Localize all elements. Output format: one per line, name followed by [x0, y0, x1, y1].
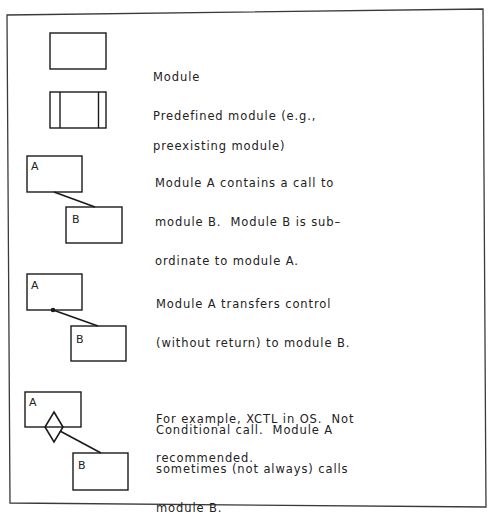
description-line: Conditional call. Module A — [156, 424, 349, 437]
module-a-label: A — [31, 279, 39, 292]
transfer-control-symbol: A B — [27, 274, 126, 361]
call-description: Module A contains a call to module B. Mo… — [155, 151, 341, 281]
description-line: ordinate to module A. — [155, 255, 341, 268]
description-line: preexisting module) — [153, 141, 316, 151]
description-line: module B. — [156, 502, 349, 515]
description-line: module B. Module B is sub– — [155, 216, 341, 229]
call-line — [54, 192, 95, 207]
transfer-dot-icon — [51, 308, 56, 313]
conditional-call-symbol: A B — [25, 392, 128, 490]
description-line: sometimes (not always) calls — [156, 463, 349, 476]
module-b-label: B — [78, 459, 86, 472]
description-line: Module A contains a call to — [155, 177, 341, 190]
conditional-call-description: Conditional call. Module A sometimes (no… — [156, 398, 349, 515]
transfer-line — [53, 310, 98, 326]
description-line: Module — [153, 71, 200, 84]
conditional-line — [60, 431, 101, 453]
predefined-module-symbol — [50, 92, 106, 128]
module-description: Module — [153, 45, 200, 97]
module-symbol — [50, 33, 106, 69]
description-line: Module A transfers control — [156, 298, 354, 311]
module-b-label: B — [76, 333, 84, 346]
module-a-label: A — [29, 396, 37, 409]
module-a-label: A — [31, 160, 39, 173]
module-b-label: B — [72, 213, 80, 226]
description-line: (without return) to module B. — [156, 337, 354, 350]
description-line: Predefined module (e.g., — [153, 111, 316, 121]
call-symbol: A B — [27, 156, 122, 243]
